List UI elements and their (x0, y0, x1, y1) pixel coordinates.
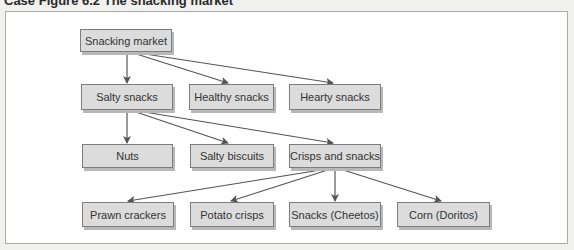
arrow-salty-to-crisps (132, 110, 333, 143)
node-label: Healthy snacks (194, 91, 269, 103)
node-prawn-crackers: Prawn crackers (82, 202, 174, 227)
arrow-snacking-to-hearty (132, 52, 333, 83)
node-salty-biscuits: Salty biscuits (190, 144, 274, 168)
node-label: Snacks (Cheetos) (291, 209, 378, 221)
node-healthy-snacks: Healthy snacks (189, 84, 274, 110)
node-label: Prawn crackers (90, 209, 166, 221)
node-salty-snacks: Salty snacks (81, 84, 173, 110)
node-hearty-snacks: Hearty snacks (289, 84, 381, 110)
node-label: Potato crisps (200, 209, 264, 221)
node-label: Hearty snacks (300, 91, 370, 103)
arrow-crisps-to-potato (231, 168, 334, 201)
node-label: Nuts (116, 150, 139, 162)
node-nuts: Nuts (82, 144, 173, 168)
node-label: Salty biscuits (200, 150, 264, 162)
node-corn-doritos: Corn (Doritos) (397, 202, 490, 227)
arrow-crisps-to-prawn (128, 168, 333, 201)
arrow-snacking-to-healthy (130, 52, 228, 83)
arrow-salty-to-biscuits (130, 110, 228, 143)
node-potato-crisps: Potato crisps (190, 202, 274, 227)
node-label: Salty snacks (96, 91, 158, 103)
node-label: Crisps and snacks (290, 150, 380, 162)
node-snacking-market: Snacking market (80, 29, 172, 52)
node-crisps-and-snacks: Crisps and snacks (289, 144, 381, 168)
node-label: Corn (Doritos) (409, 209, 478, 221)
node-label: Snacking market (85, 35, 167, 47)
node-snacks-cheetos: Snacks (Cheetos) (289, 202, 381, 227)
arrow-crisps-to-doritos (337, 168, 441, 201)
